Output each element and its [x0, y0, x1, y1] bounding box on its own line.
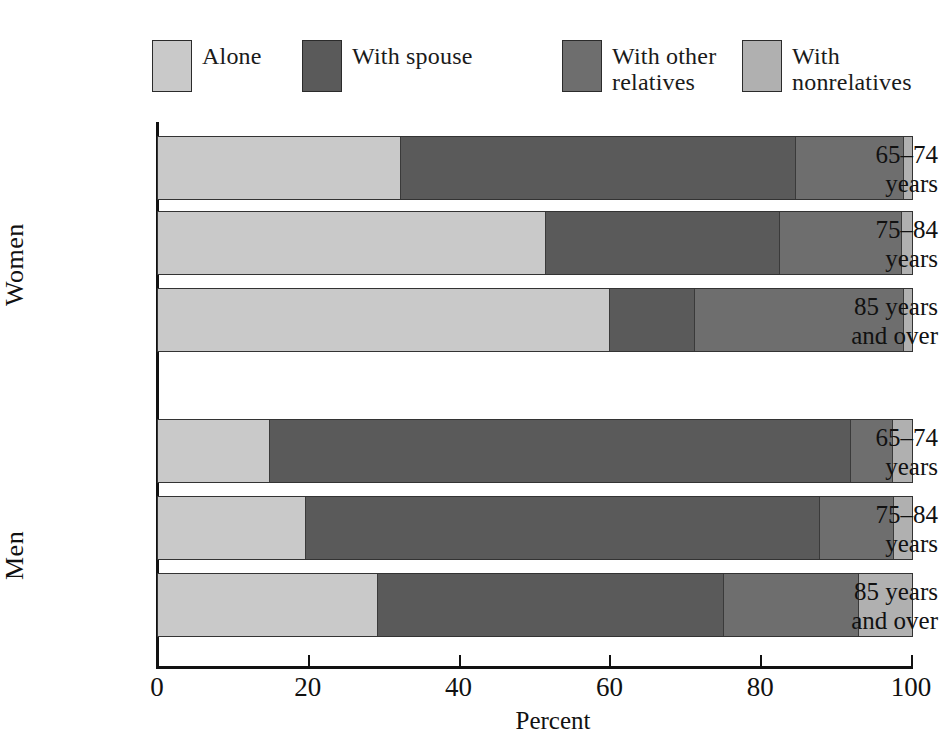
group-label-men: Men: [0, 500, 56, 610]
bar-category-label: 85 years and over: [800, 292, 950, 350]
bar-category-label: 85 years and over: [800, 577, 950, 635]
x-tick-mark: [157, 655, 159, 667]
x-tick-label: 20: [294, 672, 321, 703]
bar-segment: [545, 212, 779, 274]
bar-segment: [158, 420, 269, 482]
bar-category-label: 65–74 years: [800, 140, 950, 198]
bar-segment: [269, 420, 850, 482]
bar-category-label: 75–84 years: [800, 500, 950, 558]
bar-segment: [158, 497, 305, 559]
bar-category-label: 75–84 years: [800, 215, 950, 273]
x-tick-label: 0: [150, 672, 164, 703]
bar-segment: [609, 289, 694, 351]
x-axis-line: [156, 666, 913, 669]
x-tick-mark: [911, 655, 913, 667]
x-tick-mark: [459, 655, 461, 667]
x-tick-mark: [760, 655, 762, 667]
x-axis-title: Percent: [0, 707, 950, 735]
bar-category-label: 65–74 years: [800, 423, 950, 481]
x-axis-title-text: Percent: [516, 707, 591, 734]
bar-segment: [305, 497, 819, 559]
x-tick-mark: [609, 655, 611, 667]
bar-segment: [158, 137, 400, 199]
bar-segment: [377, 574, 724, 636]
x-tick-label: 40: [445, 672, 472, 703]
bar-segment: [400, 137, 795, 199]
x-tick-label: 80: [747, 672, 774, 703]
group-label-women: Women: [0, 190, 56, 340]
x-tick-mark: [308, 655, 310, 667]
x-tick-label: 60: [596, 672, 623, 703]
bar-segment: [158, 574, 377, 636]
x-tick-label: 100: [891, 672, 932, 703]
bar-segment: [158, 212, 545, 274]
bar-segment: [158, 289, 609, 351]
chart-plot-area: Women Men 020406080100 Percent 65–74 yea…: [0, 0, 950, 748]
